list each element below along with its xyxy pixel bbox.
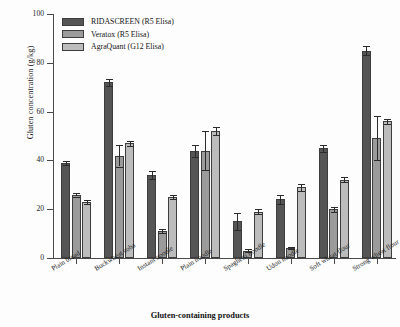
error-bar bbox=[152, 171, 153, 178]
error-bar bbox=[205, 131, 206, 170]
legend-swatch bbox=[62, 30, 84, 38]
error-bar bbox=[280, 195, 281, 205]
error-bar-cap bbox=[384, 119, 391, 120]
error-bar bbox=[301, 184, 302, 191]
error-bar-cap bbox=[298, 191, 305, 192]
error-bar bbox=[216, 127, 217, 134]
bar-group bbox=[362, 14, 392, 258]
error-bar-cap bbox=[320, 145, 327, 146]
legend-label: AgraQuant (G12 Elisa) bbox=[91, 42, 164, 51]
error-bar-cap bbox=[213, 127, 220, 128]
error-bar-cap bbox=[127, 146, 134, 147]
error-bar bbox=[377, 116, 378, 160]
error-bar-cap bbox=[63, 165, 70, 166]
y-tick-label: 40 bbox=[4, 155, 44, 164]
error-bar-cap bbox=[149, 179, 156, 180]
error-bar-cap bbox=[374, 160, 381, 161]
bar-group bbox=[233, 14, 263, 258]
y-tick-label: 0 bbox=[4, 253, 44, 262]
error-bar-cap bbox=[374, 116, 381, 117]
error-bar-cap bbox=[277, 195, 284, 196]
error-bar-cap bbox=[116, 145, 123, 146]
error-bar-cap bbox=[127, 141, 134, 142]
error-bar-cap bbox=[255, 214, 262, 215]
y-tick-label: 100 bbox=[4, 9, 44, 18]
legend-item[interactable]: Veratox (R5 Elisa) bbox=[62, 30, 174, 39]
error-bar-cap bbox=[363, 46, 370, 47]
error-bar bbox=[366, 46, 367, 56]
bar-group bbox=[190, 14, 220, 258]
error-bar-cap bbox=[202, 170, 209, 171]
error-bar-cap bbox=[106, 86, 113, 87]
error-bar-cap bbox=[73, 193, 80, 194]
bar[interactable] bbox=[82, 202, 91, 258]
error-bar-cap bbox=[63, 161, 70, 162]
bar-group bbox=[276, 14, 306, 258]
error-bar bbox=[119, 145, 120, 167]
bar[interactable] bbox=[211, 131, 220, 258]
bar[interactable] bbox=[61, 163, 70, 258]
y-tick-label: 80 bbox=[4, 58, 44, 67]
legend-swatch bbox=[62, 43, 84, 51]
error-bar bbox=[323, 145, 324, 152]
error-bar-cap bbox=[159, 233, 166, 234]
bar[interactable] bbox=[190, 151, 199, 258]
legend-label: Veratox (R5 Elisa) bbox=[91, 30, 149, 39]
legend-label: RIDASCREEN (R5 Elisa) bbox=[91, 17, 174, 26]
bar[interactable] bbox=[297, 187, 306, 258]
error-bar-cap bbox=[170, 195, 177, 196]
bar[interactable] bbox=[147, 175, 156, 258]
error-bar bbox=[195, 145, 196, 157]
error-bar-cap bbox=[73, 197, 80, 198]
bar[interactable] bbox=[362, 51, 371, 258]
error-bar-cap bbox=[202, 131, 209, 132]
error-bar-cap bbox=[84, 204, 91, 205]
error-bar-cap bbox=[170, 199, 177, 200]
x-tick-mark bbox=[76, 258, 77, 264]
error-bar-cap bbox=[234, 213, 241, 214]
error-bar-cap bbox=[149, 171, 156, 172]
error-bar-cap bbox=[159, 229, 166, 230]
bar[interactable] bbox=[104, 82, 113, 258]
chart-figure: Gluten concentration (g/kg) 020406080100… bbox=[0, 0, 400, 327]
error-bar-cap bbox=[331, 207, 338, 208]
bar-group bbox=[319, 14, 349, 258]
error-bar-cap bbox=[192, 145, 199, 146]
error-bar-cap bbox=[298, 184, 305, 185]
error-bar-cap bbox=[277, 204, 284, 205]
error-bar bbox=[237, 213, 238, 230]
error-bar-cap bbox=[341, 177, 348, 178]
bar[interactable] bbox=[319, 148, 328, 258]
error-bar-cap bbox=[106, 79, 113, 80]
chart-legend: RIDASCREEN (R5 Elisa)Veratox (R5 Elisa)A… bbox=[62, 17, 174, 55]
error-bar-cap bbox=[320, 152, 327, 153]
error-bar-cap bbox=[384, 124, 391, 125]
error-bar-cap bbox=[331, 212, 338, 213]
error-bar-cap bbox=[116, 167, 123, 168]
error-bar-cap bbox=[234, 230, 241, 231]
legend-item[interactable]: RIDASCREEN (R5 Elisa) bbox=[62, 17, 174, 26]
error-bar-cap bbox=[213, 135, 220, 136]
y-tick-label: 60 bbox=[4, 107, 44, 116]
error-bar bbox=[109, 79, 110, 86]
error-bar-cap bbox=[84, 200, 91, 201]
error-bar-cap bbox=[341, 182, 348, 183]
bar[interactable] bbox=[383, 121, 392, 258]
x-axis-title: Gluten-containing products bbox=[0, 311, 400, 320]
y-tick-label: 20 bbox=[4, 204, 44, 213]
error-bar-cap bbox=[363, 55, 370, 56]
error-bar-cap bbox=[255, 209, 262, 210]
legend-swatch bbox=[62, 18, 84, 26]
error-bar-cap bbox=[192, 157, 199, 158]
bar[interactable] bbox=[276, 199, 285, 258]
bar[interactable] bbox=[115, 156, 124, 258]
legend-item[interactable]: AgraQuant (G12 Elisa) bbox=[62, 42, 174, 51]
